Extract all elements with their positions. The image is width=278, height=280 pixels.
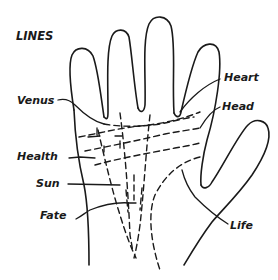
pinky-finger [70, 48, 104, 117]
leader-head [200, 107, 220, 128]
leader-heart [180, 79, 220, 112]
ring-finger [104, 30, 138, 118]
palm-left-edge [74, 110, 89, 265]
label-fate: Fate [40, 209, 67, 222]
palmistry-diagram: LINES Venus [0, 0, 278, 280]
label-head: Head [222, 100, 254, 113]
labels: Venus Heart Head Health Sun Fate Life [17, 71, 260, 232]
leader-venus [58, 99, 104, 124]
fate-line-right [134, 115, 150, 258]
leader-health [69, 157, 95, 158]
label-health: Health [17, 150, 58, 163]
head-line [85, 128, 200, 151]
sun-line [120, 113, 133, 252]
index-finger [174, 44, 220, 185]
leader-life [182, 170, 228, 224]
thumb [184, 121, 269, 265]
middle-finger [138, 17, 174, 113]
diagram-title: LINES [16, 29, 53, 43]
life-line [151, 157, 200, 270]
label-venus: Venus [17, 94, 55, 107]
label-heart: Heart [224, 71, 260, 84]
palm-lines [79, 112, 200, 270]
label-sun: Sun [36, 177, 60, 190]
leader-sun [68, 184, 120, 185]
label-life: Life [230, 219, 254, 232]
